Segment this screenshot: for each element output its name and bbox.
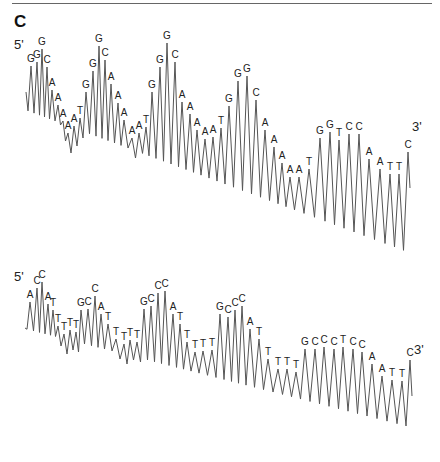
base-label-t: T (105, 311, 111, 322)
base-label-t: T (184, 329, 190, 340)
base-label-t: T (113, 326, 119, 337)
three-prime-label: 3' (414, 342, 424, 357)
base-label-t: T (284, 356, 290, 367)
base-label-a: A (179, 89, 186, 100)
base-label-g: G (225, 93, 233, 104)
base-label-c: C (43, 54, 50, 65)
base-label-a: A (210, 124, 217, 135)
base-label-a: A (247, 316, 254, 327)
base-label-g: G (148, 79, 156, 90)
base-label-a: A (262, 117, 269, 128)
base-label-a: A (202, 126, 209, 137)
base-label-c: C (101, 47, 108, 58)
chromatogram-top: 5' 3' GGGCAAAAATGGGCAAAAATGGGCAAAAATGGGC… (14, 30, 422, 250)
base-label-g: G (156, 54, 164, 65)
base-label-g: G (234, 68, 242, 79)
base-label-a: A (129, 125, 136, 136)
base-label-c: C (406, 347, 413, 358)
base-label-c: C (358, 339, 365, 350)
base-label-t: T (399, 368, 405, 379)
base-label-a: A (98, 301, 105, 312)
base-label-t: T (336, 127, 342, 138)
base-label-g: G (301, 336, 309, 347)
base-label-c: C (320, 334, 327, 345)
base-label-c: C (238, 293, 245, 304)
chromatogram-figure: 5' 3' GGGCAAAAATGGGCAAAAATGGGCAAAAATGGGC… (0, 0, 440, 462)
base-label-c: C (38, 269, 45, 280)
base-label-g: G (82, 79, 90, 90)
base-label-t: T (275, 356, 281, 367)
base-label-t: T (73, 319, 79, 330)
base-label-g: G (95, 33, 103, 44)
base-label-c: C (147, 293, 154, 304)
base-label-t: T (50, 297, 56, 308)
base-label-g: G (38, 36, 46, 47)
base-label-a: A (115, 90, 122, 101)
base-label-a: A (366, 146, 373, 157)
five-prime-label: 5' (14, 37, 24, 52)
base-label-t: T (389, 367, 395, 378)
base-label-a: A (49, 77, 56, 88)
base-label-t: T (340, 334, 346, 345)
base-label-g: G (89, 58, 97, 69)
trace-line (26, 43, 410, 250)
chromatogram-bottom: 5' 3' ACCATTTTTGCCATTTTTGCCCATTTTTGCCCAT… (14, 269, 424, 426)
base-label-a: A (379, 363, 386, 374)
base-label-a: A (296, 164, 303, 175)
base-label-t: T (134, 329, 140, 340)
base-label-c: C (91, 283, 98, 294)
base-label-c: C (330, 336, 337, 347)
base-label-t: T (218, 115, 224, 126)
base-label-t: T (387, 161, 393, 172)
base-label-t: T (209, 337, 215, 348)
base-label-c: C (404, 139, 411, 150)
base-label-a: A (60, 108, 67, 119)
base-label-c: C (84, 296, 91, 307)
base-label-t: T (127, 327, 133, 338)
base-label-c: C (345, 121, 352, 132)
base-label-c: C (161, 278, 168, 289)
base-label-a: A (369, 351, 376, 362)
base-label-a: A (287, 164, 294, 175)
base-label-a: A (194, 117, 201, 128)
base-label-a: A (187, 101, 194, 112)
base-label-a: A (108, 71, 115, 82)
base-label-t: T (177, 311, 183, 322)
base-label-t: T (77, 105, 83, 116)
five-prime-label: 5' (14, 269, 24, 284)
base-label-g: G (33, 49, 41, 60)
base-label-t: T (306, 156, 312, 167)
base-label-c: C (171, 49, 178, 60)
base-label-t: T (200, 338, 206, 349)
base-label-g: G (216, 301, 224, 312)
three-prime-label: 3' (412, 119, 422, 134)
base-label-a: A (121, 107, 128, 118)
base-label-a: A (55, 92, 62, 103)
base-label-a: A (27, 289, 34, 300)
base-label-a: A (279, 150, 286, 161)
base-label-g: G (316, 125, 324, 136)
base-label-t: T (256, 326, 262, 337)
base-label-a: A (377, 156, 384, 167)
base-label-t: T (265, 346, 271, 357)
base-label-c: C (311, 336, 318, 347)
base-label-c: C (252, 87, 259, 98)
base-label-g: G (243, 63, 251, 74)
base-label-g: G (163, 30, 171, 41)
base-label-a: A (136, 120, 143, 131)
base-label-t: T (293, 359, 299, 370)
base-label-c: C (349, 336, 356, 347)
base-label-a: A (170, 301, 177, 312)
base-label-a: A (271, 134, 278, 145)
base-label-t: T (192, 339, 198, 350)
base-label-c: C (355, 121, 362, 132)
base-label-g: G (326, 119, 334, 130)
base-label-t: T (396, 161, 402, 172)
base-label-t: T (143, 114, 149, 125)
